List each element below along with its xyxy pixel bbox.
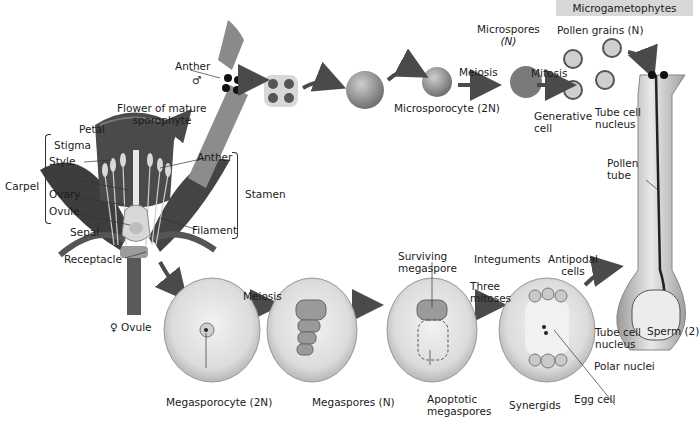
pollen-grains-label: Pollen grains (N) bbox=[557, 24, 644, 36]
stamen-brace bbox=[232, 152, 238, 239]
microspores-line2: (N) bbox=[477, 35, 540, 47]
microsporocyte-label: Microsporocyte (2N) bbox=[394, 102, 500, 114]
ovary-label: Ovary bbox=[49, 188, 80, 200]
megaspores-label: Megaspores (N) bbox=[312, 396, 395, 408]
meiosis-label-female: Meiosis bbox=[243, 290, 282, 302]
ovule-text: Ovule bbox=[121, 321, 152, 333]
microspores-label: Microspores (N) bbox=[477, 23, 540, 47]
surviving-line1: Surviving bbox=[398, 250, 457, 262]
stigma-label: Stigma bbox=[54, 139, 91, 151]
polar-nuclei-label: Polar nuclei bbox=[594, 360, 655, 372]
antipodal-line2: cells bbox=[548, 265, 598, 277]
generative-line1: Generative bbox=[534, 110, 592, 122]
apoptotic-line2: megaspores bbox=[427, 405, 491, 417]
generative-cell-label: Generative cell bbox=[534, 110, 592, 134]
flower-title-line2: sporophyte bbox=[117, 114, 207, 126]
surviving-megaspore-label: Surviving megaspore bbox=[398, 250, 457, 274]
antipodal-line1: Antipodal bbox=[548, 253, 598, 265]
anther-label-flower: Anther bbox=[197, 151, 232, 163]
generative-line2: cell bbox=[534, 122, 592, 134]
tube-cell-nucleus-label-male: Tube cell nucleus bbox=[595, 106, 641, 130]
petal-label: Petal bbox=[79, 123, 105, 135]
pollen-tube-line1: Pollen bbox=[607, 157, 638, 169]
three-line1: Three bbox=[470, 280, 511, 292]
ovule-illustrations bbox=[164, 278, 595, 382]
male-symbol: ♂ bbox=[192, 74, 201, 86]
antipodal-cells-label: Antipodal cells bbox=[548, 253, 598, 277]
megasporocyte-label: Megasporocyte (2N) bbox=[166, 396, 272, 408]
integuments-label: Integuments bbox=[474, 253, 541, 265]
stamen-label: Stamen bbox=[245, 188, 286, 200]
tube-nucleus-f-line2: nucleus bbox=[595, 338, 641, 350]
surviving-line2: megaspore bbox=[398, 262, 457, 274]
sperm-label: Sperm (2) bbox=[647, 325, 699, 337]
carpel-label: Carpel bbox=[5, 180, 39, 192]
female-ovule-label: ♀ Ovule bbox=[110, 321, 152, 333]
style-label: Style bbox=[49, 155, 75, 167]
egg-cell-label: Egg cell bbox=[574, 393, 615, 405]
pollen-tube-label: Pollen tube bbox=[607, 157, 638, 181]
receptacle-label: Receptacle bbox=[64, 253, 122, 265]
mitosis-label: Mitosis bbox=[531, 67, 567, 79]
flower-title-line1: Flower of mature bbox=[117, 102, 207, 114]
tube-nucleus-line1: Tube cell bbox=[595, 106, 641, 118]
female-symbol: ♀ bbox=[110, 321, 118, 333]
ovule-label: Ovule bbox=[49, 205, 80, 217]
apoptotic-line1: Apoptotic bbox=[427, 393, 491, 405]
tube-nucleus-line2: nucleus bbox=[595, 118, 641, 130]
synergids-label: Synergids bbox=[509, 399, 561, 411]
meiosis-label-male: Meiosis bbox=[459, 66, 498, 78]
microgametophytes-header: Microgametophytes bbox=[556, 0, 693, 16]
anther-label: Anther bbox=[175, 60, 210, 72]
sepal-label: Sepal bbox=[70, 226, 99, 238]
carpel-brace bbox=[45, 134, 51, 224]
microspores-line1: Microspores bbox=[477, 23, 540, 35]
flower-title: Flower of mature sporophyte bbox=[117, 102, 207, 126]
tube-cell-nucleus-label-female: Tube cell nucleus bbox=[595, 326, 641, 350]
apoptotic-megaspores-label: Apoptotic megaspores bbox=[427, 393, 491, 417]
three-line2: mitoses bbox=[470, 292, 511, 304]
three-mitoses-label: Three mitoses bbox=[470, 280, 511, 304]
pollen-tube-line2: tube bbox=[607, 169, 638, 181]
tube-nucleus-f-line1: Tube cell bbox=[595, 326, 641, 338]
filament-label: Filament bbox=[192, 224, 237, 236]
